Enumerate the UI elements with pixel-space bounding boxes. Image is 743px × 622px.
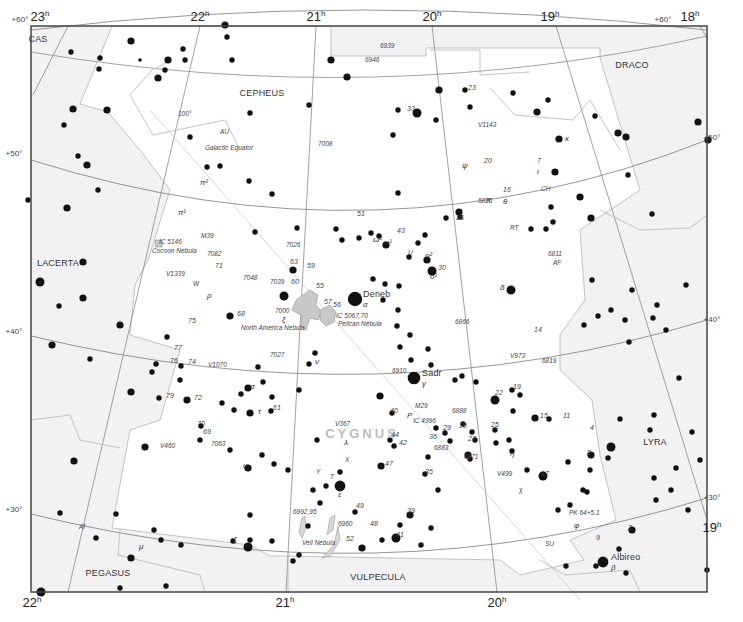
star (551, 168, 558, 175)
star (280, 292, 289, 301)
star (507, 286, 516, 295)
greek-label: ξ (282, 315, 286, 324)
star (651, 475, 656, 480)
greek-label: λ (343, 438, 348, 447)
variable-star-label: Af (78, 523, 86, 530)
star (271, 461, 276, 466)
star (467, 104, 472, 109)
star (673, 465, 678, 470)
star (93, 535, 98, 540)
variable-star-label: V1070 (208, 361, 227, 368)
variable-star-label: AF (552, 259, 562, 266)
star (689, 429, 694, 434)
star (428, 362, 433, 367)
star (543, 226, 548, 231)
deep-sky-label: North America Nebula (241, 324, 305, 331)
star (528, 226, 533, 231)
ra-label: 21h (307, 9, 326, 24)
cygnus-star-chart: 23h22h21h20h19h18h22h21h20h19h+60°+60°+5… (0, 0, 743, 622)
star (217, 163, 222, 168)
constellation-label-lacerta: LACERTA (37, 258, 79, 268)
deep-sky-label: IC 5067,70 (336, 312, 368, 319)
deep-sky-label: M29 (415, 402, 428, 409)
star (649, 211, 654, 216)
deep-sky-label: Veil Nebula (302, 539, 335, 546)
deep-sky-label: 6811 (548, 250, 562, 257)
variable-star-label: AU (219, 128, 229, 135)
star (333, 226, 338, 231)
flamsteed-label: 8 (587, 449, 591, 456)
star (246, 178, 251, 183)
star (314, 437, 319, 442)
star (531, 414, 538, 421)
star (269, 538, 274, 543)
star (97, 55, 102, 60)
flamsteed-label: 75 (188, 317, 196, 324)
star (339, 237, 344, 242)
star (580, 487, 585, 492)
star (352, 509, 357, 514)
star (382, 281, 387, 286)
star (327, 56, 334, 63)
variable-star-label: SU (545, 540, 554, 547)
star (238, 391, 243, 396)
deep-sky-label: 6883 (434, 444, 449, 451)
variable-star-label: X (344, 456, 350, 463)
constellation-label-lyra: LYRA (643, 437, 667, 447)
flamsteed-label: 27 (467, 435, 477, 442)
deep-sky-label: Pelican Nebula (338, 320, 382, 327)
flamsteed-label: 59 (307, 262, 315, 269)
star (422, 232, 427, 237)
star (310, 487, 315, 492)
deep-sky-label: Galactic Equator (205, 144, 254, 152)
star (127, 37, 134, 44)
flamsteed-label: 76 (170, 357, 178, 364)
flamsteed-label: 48 (370, 520, 378, 527)
flamsteed-label: 61 (273, 404, 281, 411)
deep-sky-label: 7039 (270, 278, 285, 285)
variable-star-label: W (193, 280, 200, 287)
star (162, 67, 167, 72)
greek-label: η (510, 449, 515, 458)
star (247, 537, 252, 542)
star (685, 507, 690, 512)
star (370, 276, 375, 281)
greek-label: φ (574, 521, 579, 530)
star (407, 332, 412, 337)
star (154, 74, 161, 81)
flamsteed-label: 52 (346, 535, 354, 542)
star (694, 118, 701, 125)
flamsteed-label: 49 (356, 502, 364, 509)
star (56, 303, 61, 308)
greek-label: π² (200, 178, 208, 187)
star (244, 543, 253, 552)
star (408, 357, 413, 362)
star (226, 312, 233, 319)
star (182, 57, 187, 62)
star (113, 511, 118, 516)
star (425, 346, 430, 351)
star (548, 204, 553, 209)
deep-sky-label: 6946 (365, 56, 380, 63)
star (433, 425, 438, 430)
star (623, 570, 628, 575)
star (317, 500, 322, 505)
greek-label: π¹ (178, 208, 186, 217)
ra-label: 19h (541, 9, 560, 24)
star (622, 133, 629, 140)
star (224, 34, 229, 39)
star (141, 443, 148, 450)
dec-label: +60° (12, 15, 29, 24)
star (269, 394, 274, 399)
star (153, 361, 158, 366)
star (306, 361, 311, 366)
star (391, 443, 396, 448)
star (616, 546, 621, 551)
greek-label: ι (537, 167, 539, 176)
star (506, 437, 511, 442)
star (163, 583, 168, 588)
star (343, 73, 350, 80)
star (668, 487, 673, 492)
star (87, 356, 92, 361)
star (127, 388, 134, 395)
